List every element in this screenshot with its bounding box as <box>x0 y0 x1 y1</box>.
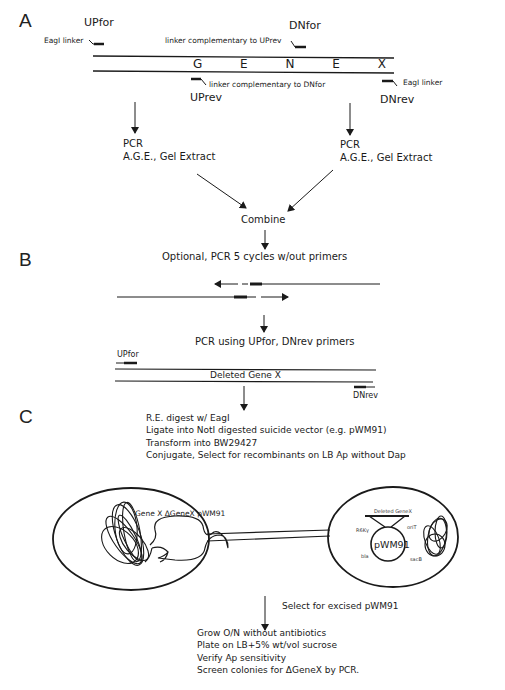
pcr-primers-step: PCR using UPfor, DNrev primers <box>195 335 355 348</box>
linker-comp-uprev-label: linker complementary to UPrev <box>165 36 281 45</box>
plasmid-name-label: pWM91 <box>374 539 410 550</box>
panel-label-a: A <box>19 10 32 32</box>
linker-comp-dnfor-label: linker complementary to DNfor <box>209 80 325 89</box>
donor-cell-label: Gene X ΔGeneX pWM91 <box>135 509 225 518</box>
gene-x-label: G E N E X <box>193 57 403 71</box>
cloning-step: Transform into BW29427 <box>146 437 406 449</box>
primer-dnfor-label: DNfor <box>289 19 321 32</box>
primer-dnfor-icon <box>291 41 306 47</box>
plasmid-feature-sacb: sacB <box>410 556 422 562</box>
cloning-step: R.E. digest w/ EagI <box>146 412 406 424</box>
plasmid-feature-orit: oriT <box>407 524 417 530</box>
final-step: Grow O/N without antibiotics <box>197 627 359 639</box>
integrated-plasmid-loop <box>145 516 228 562</box>
arrow-right-combine <box>288 170 333 211</box>
deleted-upfor-label: UPfor <box>117 350 139 359</box>
primer-upfor-icon <box>89 40 104 44</box>
final-step: Plate on LB+5% wt/vol sucrose <box>197 639 359 651</box>
deleted-gene-x-label: Deleted Gene X <box>210 370 281 380</box>
recipient-cell <box>328 487 458 587</box>
select-excised-step: Select for excised pWM91 <box>282 601 399 611</box>
combine-label: Combine <box>241 213 285 226</box>
cloning-steps-list: R.E. digest w/ EagI Ligate into NotI dig… <box>146 412 406 461</box>
primer-uprev-icon <box>191 79 206 85</box>
final-step: Verify Ap sensitivity <box>197 652 359 664</box>
recipient-chromosome-icon <box>420 516 451 558</box>
left-gel-extract-label: A.G.E., Gel Extract <box>123 150 215 163</box>
primer-dnrev-icon <box>382 81 397 86</box>
right-pcr-label: PCR <box>340 138 432 151</box>
arrow-left-combine <box>197 174 246 208</box>
primer-dnrev-label: DNrev <box>380 93 414 106</box>
primer-upfor-label: UPfor <box>84 16 114 29</box>
donor-cell <box>53 488 228 590</box>
deleted-dnrev-label: DNrev <box>353 391 378 400</box>
plasmid-insert-label: Deleted GeneX <box>374 508 412 514</box>
final-step: Screen colonies for ΔGeneX by PCR. <box>197 664 359 676</box>
overlap-extension-strands <box>117 284 380 297</box>
final-steps-list: Grow O/N without antibiotics Plate on LB… <box>197 627 359 676</box>
primer-uprev-label: UPrev <box>190 91 222 104</box>
eagi-linker-right-label: EagI linker <box>403 78 442 87</box>
cloning-step: Ligate into NotI digested suicide vector… <box>146 424 406 436</box>
left-pcr-label: PCR <box>123 137 215 150</box>
optional-pcr-step: Optional, PCR 5 cycles w/out primers <box>162 250 347 263</box>
eagi-linker-left-label: EagI linker <box>44 36 83 45</box>
right-pcr-step: PCR A.G.E., Gel Extract <box>340 138 432 164</box>
plasmid-feature-bla: bla <box>361 553 369 559</box>
left-pcr-step: PCR A.G.E., Gel Extract <box>123 137 215 163</box>
cloning-step: Conjugate, Select for recombinants on LB… <box>146 449 406 461</box>
panel-label-c: C <box>19 406 33 428</box>
panel-label-b: B <box>19 249 32 271</box>
right-gel-extract-label: A.G.E., Gel Extract <box>340 151 432 164</box>
plasmid-feature-r6k: R6Kγ <box>356 527 369 533</box>
